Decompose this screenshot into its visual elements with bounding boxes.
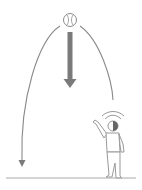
person-raised-arm bbox=[93, 120, 107, 138]
trajectory-arrowhead-icon bbox=[19, 160, 26, 167]
trajectory-arc bbox=[22, 26, 113, 160]
person-legs bbox=[106, 152, 122, 178]
person-torso bbox=[106, 133, 120, 152]
person-figure bbox=[93, 120, 124, 178]
gravity-arrow-icon bbox=[64, 32, 77, 88]
diagram-canvas: Ball thrown upward falls back down bbox=[0, 0, 142, 190]
baseball-icon bbox=[64, 14, 77, 27]
motion-arcs-icon bbox=[102, 112, 124, 120]
